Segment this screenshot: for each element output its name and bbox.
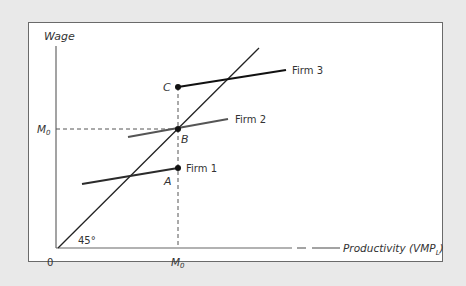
point-a-label: A — [163, 175, 172, 188]
angle-label: 45° — [78, 235, 96, 246]
y-axis-label: Wage — [44, 30, 75, 43]
firm1-label: Firm 1 — [186, 163, 217, 174]
point-a-marker — [175, 165, 181, 171]
firm2-label: Firm 2 — [235, 114, 266, 125]
point-c-marker — [175, 84, 181, 90]
origin-label: 0 — [47, 257, 53, 268]
firm3-label: Firm 3 — [292, 65, 323, 76]
wage-productivity-diagram: Wage Productivity (VMPL) 0 45° M0 M0 C B… — [0, 0, 466, 286]
point-b-marker — [175, 126, 181, 132]
x-tick-m0: M0 — [171, 256, 185, 270]
y-tick-m0: M0 — [37, 123, 51, 137]
point-b-label: B — [181, 133, 189, 146]
x-axis-label: Productivity (VMPL) — [343, 242, 444, 257]
point-c-label: C — [163, 81, 171, 94]
firm3-line — [178, 70, 286, 87]
